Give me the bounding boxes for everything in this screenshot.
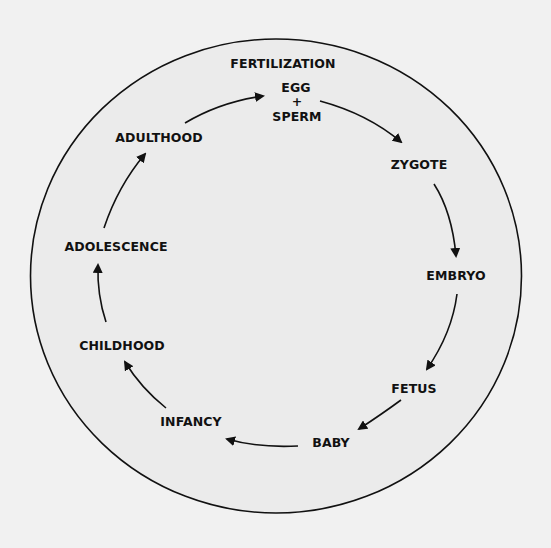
egg-label: EGG	[281, 80, 310, 95]
stage-childhood: CHILDHOOD	[79, 338, 165, 353]
fertilization-label: FERTILIZATION	[230, 56, 335, 71]
life-cycle-diagram: FERTILIZATION EGG + SPERM ZYGOTE EMBRYO …	[0, 0, 551, 548]
stage-embryo: EMBRYO	[426, 268, 485, 283]
stage-fetus: FETUS	[391, 381, 436, 396]
stage-adulthood: ADULTHOOD	[115, 130, 203, 145]
stage-adolescence: ADOLESCENCE	[64, 239, 167, 254]
sperm-label: SPERM	[272, 109, 321, 124]
stage-baby: BABY	[312, 435, 350, 450]
plus-sign: +	[292, 94, 303, 109]
stage-zygote: ZYGOTE	[391, 157, 448, 172]
stage-infancy: INFANCY	[160, 414, 222, 429]
